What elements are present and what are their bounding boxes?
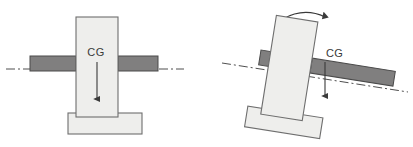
cg-stability-diagram: CG CG: [0, 0, 413, 147]
beam-right-upright: [118, 56, 158, 71]
beam-left-upright: [30, 56, 76, 71]
cg-label-upright: CG: [87, 46, 104, 58]
cg-label-tilted: CG: [326, 47, 343, 59]
